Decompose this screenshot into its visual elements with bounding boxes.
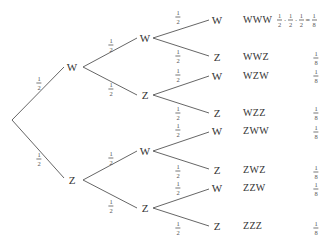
product-expression: 12 · 12 · 12 = 18 [277,13,317,28]
branch-WZ-W [153,76,209,95]
factor: 12 [277,13,282,28]
outcome-probability: 18 [313,221,318,236]
dot-operator: · [284,16,287,25]
leaf-ZZW: W [212,183,222,194]
prob-WW-Z: 12 [175,49,180,64]
prob-WZ-Z: 12 [175,106,180,121]
branch-WZ-Z [153,95,209,113]
outcome-probability: 18 [313,69,318,84]
outcome-sequence: WZW [243,71,269,81]
prob-ZW-W: 12 [175,123,180,138]
leaf-ZZZ: Z [214,221,221,232]
node-WZ: Z [142,90,149,101]
leaf-ZWW: W [212,126,222,137]
outcome-sequence: ZWZ [243,165,266,175]
outcome-probability: 18 [313,106,318,121]
product-result: 18 [312,13,317,28]
outcome-sequence: WZZ [243,108,266,118]
prob-Z-W: 12 [108,151,113,166]
node-WW: W [140,33,150,44]
branch-ZW-Z [153,151,209,169]
node-ZW: W [140,146,150,157]
factor: 12 [299,13,304,28]
factor: 12 [288,13,293,28]
prob-ZW-Z: 12 [175,164,180,179]
prob-W-Z: 12 [108,82,113,97]
outcome-probability: 18 [313,51,318,66]
dot-operator: · [295,16,298,25]
tree-branches [0,0,329,242]
outcome-sequence: ZZW [243,183,266,193]
outcome-probability: 18 [313,165,318,180]
prob-root-W: 12 [36,76,41,91]
outcome-sequence: ZZZ [243,221,262,231]
branch-ZZ-W [153,189,209,208]
branch-WW-Z [153,38,209,56]
outcome-sequence: ZWW [243,126,269,136]
prob-W-W: 12 [108,38,113,53]
node-Z: Z [69,175,76,186]
leaf-WZW: W [212,71,222,82]
outcome-sequence: WWZ [243,52,269,62]
branch-root-Z [12,120,64,178]
leaf-WZZ: Z [214,108,221,119]
prob-ZZ-Z: 12 [175,221,180,236]
leaf-ZWZ: Z [214,165,221,176]
outcome-probability: 18 [313,182,318,197]
prob-WW-W: 12 [175,10,180,25]
node-W: W [67,62,77,73]
outcome-sequence: WWW [243,15,272,25]
branch-ZZ-Z [153,208,209,226]
branch-WW-W [153,20,209,38]
leaf-WWZ: Z [214,52,221,63]
outcome-probability: 18 [313,125,318,140]
prob-root-Z: 12 [36,152,41,167]
leaf-WWW: W [212,15,222,26]
equals-sign: = [306,16,311,25]
prob-Z-Z: 12 [108,199,113,214]
node-ZZ: Z [142,203,149,214]
branch-ZW-W [153,132,209,151]
prob-WZ-W: 12 [175,68,180,83]
prob-ZZ-W: 12 [175,181,180,196]
